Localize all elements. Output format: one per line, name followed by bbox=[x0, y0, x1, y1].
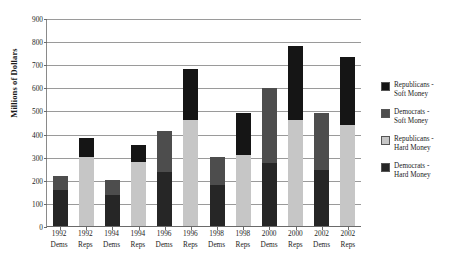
bar-segment-hard-money bbox=[79, 157, 94, 227]
x-axis-labels: 1992Dems1992Reps1994Dems1994Reps1996Dems… bbox=[46, 229, 361, 250]
stacked-bar[interactable] bbox=[157, 131, 172, 227]
legend-label-line2: Soft Money bbox=[394, 117, 429, 126]
legend-label-line2: Hard Money bbox=[394, 171, 431, 180]
legend-item[interactable]: Democrats -Soft Money bbox=[381, 108, 459, 126]
y-axis-tick-label: 600 bbox=[32, 84, 43, 93]
x-label-year: 2000 bbox=[282, 229, 308, 240]
bar-slot bbox=[256, 19, 282, 227]
x-label-party: Reps bbox=[230, 240, 256, 251]
bar-group bbox=[47, 19, 361, 227]
bar-slot bbox=[335, 19, 361, 227]
bar-segment-soft-money bbox=[105, 180, 120, 195]
stacked-bar[interactable] bbox=[314, 113, 329, 227]
bar-segment-soft-money bbox=[131, 145, 146, 162]
stacked-bar[interactable] bbox=[210, 157, 225, 227]
x-axis-tick-label: 1994Reps bbox=[125, 229, 151, 250]
legend-label-line1: Democrats - bbox=[394, 162, 431, 171]
bar-slot bbox=[47, 19, 73, 227]
chart-legend: Republicans -Soft MoneyDemocrats -Soft M… bbox=[381, 81, 459, 189]
plot-area: 0100200300400500600700800900 bbox=[46, 19, 361, 227]
x-axis-line bbox=[47, 226, 361, 227]
x-axis-tick-label: 1994Dems bbox=[99, 229, 125, 250]
bar-segment-hard-money bbox=[157, 172, 172, 227]
bar-segment-soft-money bbox=[157, 131, 172, 171]
y-axis-title: Millions of Dollars bbox=[9, 23, 19, 143]
legend-label: Republicans -Hard Money bbox=[394, 135, 434, 153]
legend-label-line2: Soft Money bbox=[394, 90, 434, 99]
x-axis-tick-label: 2002Dems bbox=[309, 229, 335, 250]
bar-segment-soft-money bbox=[210, 157, 225, 186]
bar-slot bbox=[152, 19, 178, 227]
bar-segment-hard-money bbox=[105, 195, 120, 227]
x-axis-tick-label: 1992Dems bbox=[46, 229, 72, 250]
y-axis-tick-mark bbox=[44, 227, 47, 228]
stacked-bar-chart: Millions of Dollars 01002003004005006007… bbox=[0, 0, 459, 261]
bar-segment-soft-money bbox=[53, 176, 68, 190]
y-axis-tick-label: 700 bbox=[32, 61, 43, 70]
x-label-party: Dems bbox=[256, 240, 282, 251]
stacked-bar[interactable] bbox=[183, 69, 198, 227]
x-label-party: Dems bbox=[204, 240, 230, 251]
y-axis-tick-label: 900 bbox=[32, 15, 43, 24]
x-label-party: Reps bbox=[125, 240, 151, 251]
stacked-bar[interactable] bbox=[105, 180, 120, 227]
bar-segment-soft-money bbox=[262, 88, 277, 163]
x-label-party: Reps bbox=[72, 240, 98, 251]
bar-slot bbox=[309, 19, 335, 227]
x-axis-tick-label: 2000Dems bbox=[256, 229, 282, 250]
stacked-bar[interactable] bbox=[340, 57, 355, 227]
stacked-bar[interactable] bbox=[131, 145, 146, 227]
x-label-party: Dems bbox=[99, 240, 125, 251]
x-label-year: 1992 bbox=[46, 229, 72, 240]
legend-label-line1: Republicans - bbox=[394, 135, 434, 144]
bar-segment-hard-money bbox=[183, 120, 198, 227]
x-label-party: Dems bbox=[309, 240, 335, 251]
legend-label-line2: Hard Money bbox=[394, 144, 434, 153]
legend-label: Republicans -Soft Money bbox=[394, 81, 434, 99]
x-label-year: 1994 bbox=[99, 229, 125, 240]
x-axis-tick-label: 1996Dems bbox=[151, 229, 177, 250]
bar-segment-hard-money bbox=[53, 190, 68, 227]
bar-segment-hard-money bbox=[262, 163, 277, 227]
stacked-bar[interactable] bbox=[288, 46, 303, 227]
y-axis-tick-label: 400 bbox=[32, 130, 43, 139]
legend-item[interactable]: Republicans -Hard Money bbox=[381, 135, 459, 153]
bar-segment-soft-money bbox=[340, 57, 355, 125]
stacked-bar[interactable] bbox=[236, 113, 251, 227]
bar-segment-soft-money bbox=[288, 46, 303, 120]
y-axis-tick-label: 800 bbox=[32, 38, 43, 47]
x-label-year: 1992 bbox=[72, 229, 98, 240]
bar-segment-soft-money bbox=[79, 138, 94, 157]
legend-item[interactable]: Republicans -Soft Money bbox=[381, 81, 459, 99]
bar-slot bbox=[230, 19, 256, 227]
y-axis-tick-label: 100 bbox=[32, 199, 43, 208]
x-label-year: 1996 bbox=[151, 229, 177, 240]
y-axis-tick-label: 300 bbox=[32, 153, 43, 162]
x-axis-tick-label: 1996Reps bbox=[177, 229, 203, 250]
x-label-year: 2002 bbox=[335, 229, 361, 240]
bar-segment-hard-money bbox=[131, 162, 146, 227]
stacked-bar[interactable] bbox=[53, 176, 68, 227]
y-axis-tick-label: 0 bbox=[39, 223, 43, 232]
x-label-party: Dems bbox=[151, 240, 177, 251]
legend-swatch bbox=[381, 136, 390, 145]
x-label-year: 1998 bbox=[230, 229, 256, 240]
x-label-year: 1996 bbox=[177, 229, 203, 240]
legend-item[interactable]: Democrats -Hard Money bbox=[381, 162, 459, 180]
x-label-party: Reps bbox=[177, 240, 203, 251]
x-axis-tick-label: 1998Dems bbox=[204, 229, 230, 250]
y-axis-tick-label: 500 bbox=[32, 107, 43, 116]
stacked-bar[interactable] bbox=[79, 138, 94, 227]
legend-label: Democrats -Hard Money bbox=[394, 162, 431, 180]
bar-slot bbox=[99, 19, 125, 227]
x-label-year: 1998 bbox=[204, 229, 230, 240]
bar-segment-hard-money bbox=[210, 185, 225, 227]
legend-swatch bbox=[381, 82, 390, 91]
bar-slot bbox=[178, 19, 204, 227]
x-label-party: Reps bbox=[335, 240, 361, 251]
legend-label: Democrats -Soft Money bbox=[394, 108, 429, 126]
legend-label-line1: Democrats - bbox=[394, 108, 429, 117]
x-axis-tick-label: 2000Reps bbox=[282, 229, 308, 250]
stacked-bar[interactable] bbox=[262, 88, 277, 227]
x-axis-tick-label: 1992Reps bbox=[72, 229, 98, 250]
